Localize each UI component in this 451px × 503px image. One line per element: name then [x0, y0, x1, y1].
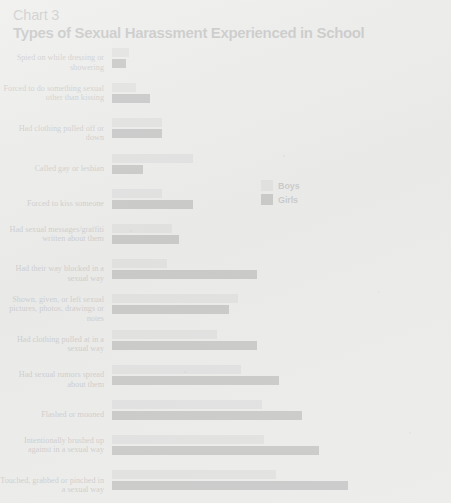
category-label: Called gay or lesbian — [0, 164, 104, 173]
bar-pair — [112, 294, 238, 316]
bar-pair — [112, 224, 179, 246]
bar-girls — [112, 165, 143, 174]
bar-girls — [112, 270, 257, 279]
bar-girls — [112, 446, 319, 455]
bar-boys — [112, 259, 167, 268]
bar-girls — [112, 481, 348, 490]
chart-legend: Boys Girls — [261, 180, 300, 208]
bar-boys — [112, 118, 162, 127]
category-label: Had their way blocked in a sexual way — [0, 264, 104, 283]
chart-number: Chart 3 — [13, 7, 443, 23]
bar-girls — [112, 235, 179, 244]
chart-root: Chart 3 Types of Sexual Harassment Exper… — [0, 0, 451, 503]
page-title: Types of Sexual Harassment Experienced i… — [13, 24, 443, 42]
bar-boys — [112, 294, 238, 303]
bar-boys — [112, 365, 241, 374]
category-label: Had sexual rumors spread about them — [0, 370, 104, 389]
bar-boys — [112, 330, 217, 339]
bar-pair — [112, 189, 193, 211]
category-label: Had clothing pulled at in a sexual way — [0, 335, 104, 354]
bar-boys — [112, 189, 162, 198]
bar-boys — [112, 435, 264, 444]
bar-boys — [112, 83, 136, 92]
bar-pair — [112, 365, 279, 387]
bar-pair — [112, 118, 162, 140]
category-label: Forced to do something sexual other than… — [0, 84, 104, 103]
category-label: Spied on while dressing or showering — [0, 53, 104, 72]
bar-pair — [112, 435, 319, 457]
bar-pair — [112, 48, 129, 70]
bar-boys — [112, 470, 276, 479]
category-label: Had clothing pulled off or down — [0, 124, 104, 143]
bar-girls — [112, 94, 150, 103]
bar-girls — [112, 129, 162, 138]
category-label: Touched, grabbed or pinched in a sexual … — [0, 476, 104, 495]
bar-boys — [112, 224, 172, 233]
category-label: Flashed or mooned — [0, 410, 104, 419]
category-label: Forced to kiss someone — [0, 199, 104, 208]
bar-pair — [112, 470, 348, 492]
legend-item-boys: Boys — [261, 180, 300, 191]
category-label: Intentionally brushed up against in a se… — [0, 436, 104, 455]
legend-swatch-girls-icon — [261, 194, 273, 205]
legend-item-girls: Girls — [261, 194, 300, 205]
bar-girls — [112, 305, 229, 314]
legend-swatch-boys-icon — [261, 180, 273, 191]
bar-boys — [112, 400, 262, 409]
bar-boys — [112, 154, 193, 163]
bar-girls — [112, 200, 193, 209]
bar-girls — [112, 59, 126, 68]
category-label: Had sexual messages/graffiti written abo… — [0, 225, 104, 244]
bar-pair — [112, 259, 257, 281]
plot-area: Spied on while dressing or showeringForc… — [0, 48, 451, 503]
bar-pair — [112, 400, 302, 422]
legend-label-boys: Boys — [278, 181, 300, 191]
bar-girls — [112, 411, 302, 420]
bar-girls — [112, 341, 257, 350]
legend-label-girls: Girls — [278, 195, 298, 205]
bar-pair — [112, 154, 193, 176]
bar-boys — [112, 48, 129, 57]
bar-pair — [112, 83, 150, 105]
bar-girls — [112, 376, 279, 385]
category-label: Shown, given, or left sexual pictures, p… — [0, 295, 104, 323]
bar-pair — [112, 330, 257, 352]
chart-header: Chart 3 Types of Sexual Harassment Exper… — [13, 7, 443, 42]
